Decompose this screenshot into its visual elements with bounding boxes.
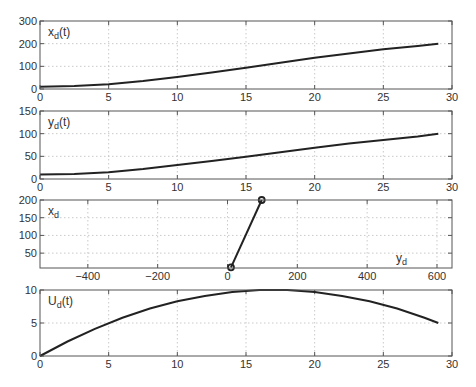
panel-label: xd(t) — [48, 25, 70, 41]
axes-box — [40, 21, 452, 89]
subplot-3: −400−200020040060050100150200xdyd — [19, 194, 452, 282]
x-tick-label: 10 — [171, 358, 183, 370]
x-tick-label: 5 — [106, 181, 112, 193]
x-tick-label: 20 — [309, 358, 321, 370]
y-tick-label: 50 — [25, 150, 37, 162]
data-line — [40, 134, 438, 175]
x-tick-label: −200 — [145, 270, 170, 282]
subplot-1: 0510152025300100200300xd(t) — [19, 15, 458, 103]
y-tick-label: 0 — [31, 173, 37, 185]
data-line — [40, 44, 438, 87]
x-tick-label: 0 — [37, 181, 43, 193]
y-tick-label: 300 — [19, 15, 37, 27]
x-tick-label: 400 — [358, 270, 376, 282]
x-tick-label: 25 — [377, 358, 389, 370]
x-tick-label: 10 — [171, 181, 183, 193]
axes-box — [40, 111, 452, 179]
x-tick-label: 15 — [240, 91, 252, 103]
x-tick-label: 600 — [428, 270, 446, 282]
panel-label: xd — [48, 204, 59, 220]
x-tick-label: 200 — [288, 270, 306, 282]
x-tick-label: 10 — [171, 91, 183, 103]
y-tick-label: 0 — [31, 350, 37, 362]
y-tick-label: 100 — [19, 128, 37, 140]
x-tick-label: 25 — [377, 181, 389, 193]
y-tick-label: 100 — [19, 60, 37, 72]
subplot-4: 0510152025300510Ud(t) — [25, 284, 458, 370]
x-tick-label: 0 — [37, 358, 43, 370]
y-tick-label: 100 — [19, 229, 37, 241]
x-tick-label: 0 — [37, 91, 43, 103]
y-tick-label: 5 — [31, 317, 37, 329]
y-tick-label: 0 — [31, 83, 37, 95]
x-tick-label: 20 — [309, 181, 321, 193]
y-tick-label: 200 — [19, 194, 37, 206]
panel-label: yd(t) — [48, 115, 70, 131]
figure: 0510152025300100200300xd(t)0510152025300… — [0, 0, 476, 387]
y-tick-label: 150 — [19, 212, 37, 224]
y-tick-label: 50 — [25, 247, 37, 259]
panel-label: Ud(t) — [48, 294, 73, 310]
subplot-2: 051015202530050100150yd(t) — [19, 105, 458, 193]
x-tick-label: 30 — [446, 358, 458, 370]
y-tick-label: 200 — [19, 38, 37, 50]
data-line — [40, 290, 438, 356]
x-tick-label: 0 — [224, 270, 230, 282]
x-tick-label: 30 — [446, 91, 458, 103]
x-tick-label: 25 — [377, 91, 389, 103]
x-tick-label: 20 — [309, 91, 321, 103]
x-tick-label: −400 — [75, 270, 100, 282]
y-tick-label: 10 — [25, 284, 37, 296]
data-line — [231, 200, 262, 267]
x-tick-label: 5 — [106, 91, 112, 103]
x-tick-label: 30 — [446, 181, 458, 193]
x-tick-label: 5 — [106, 358, 112, 370]
x-tick-label: 15 — [240, 358, 252, 370]
y-tick-label: 150 — [19, 105, 37, 117]
x-tick-label: 15 — [240, 181, 252, 193]
